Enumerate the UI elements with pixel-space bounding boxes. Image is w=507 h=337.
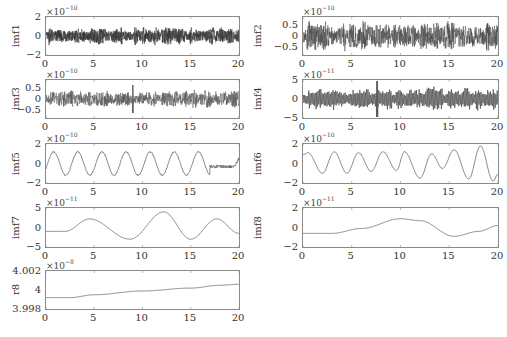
- x-tick-label: 15: [180, 59, 200, 69]
- y-tick-label: 0.5: [258, 20, 298, 30]
- x-tick-label: 10: [132, 313, 152, 323]
- exponent-label: ×10−10: [303, 4, 335, 17]
- figure-caption: [150, 331, 360, 337]
- x-tick-label: 5: [341, 187, 361, 197]
- series-line: [46, 144, 239, 183]
- y-tick-label: −0.5: [258, 42, 298, 52]
- y-tick-label: 4.002: [1, 266, 41, 276]
- plot-area: [302, 207, 499, 248]
- y-tick-label: 0: [258, 31, 298, 41]
- x-tick-label: 20: [487, 187, 507, 197]
- x-tick-label: 5: [341, 251, 361, 261]
- x-tick-label: 20: [228, 313, 248, 323]
- y-tick-label: 0: [1, 159, 41, 169]
- x-tick-label: 10: [390, 122, 410, 132]
- exponent-label: ×10−8: [46, 258, 74, 271]
- x-tick-label: 10: [390, 59, 410, 69]
- plot-area: [45, 207, 240, 248]
- x-tick-label: 5: [83, 187, 103, 197]
- exponent-label: ×10−10: [303, 131, 335, 144]
- x-tick-label: 10: [132, 187, 152, 197]
- exponent-label: ×10−10: [46, 67, 78, 80]
- exponent-label: ×10−11: [303, 67, 335, 80]
- x-tick-label: 15: [438, 251, 458, 261]
- x-tick-label: 20: [228, 187, 248, 197]
- y-tick-label: 2: [258, 203, 298, 213]
- x-tick-label: 0: [35, 313, 55, 323]
- plot-area: [45, 79, 240, 119]
- series-line: [303, 17, 498, 55]
- series-line: [303, 80, 498, 118]
- series-line: [303, 208, 498, 247]
- x-tick-label: 5: [83, 313, 103, 323]
- y-tick-label: 0.5: [1, 83, 41, 93]
- x-tick-label: 20: [228, 59, 248, 69]
- exponent-label: ×10−11: [303, 195, 335, 208]
- x-tick-label: 10: [132, 251, 152, 261]
- series-line: [46, 271, 239, 309]
- y-tick-label: 0: [1, 31, 41, 41]
- exponent-label: ×10−11: [46, 195, 78, 208]
- x-tick-label: 15: [180, 313, 200, 323]
- y-tick-label: 2: [1, 12, 41, 22]
- y-tick-label: −0.5: [1, 105, 41, 115]
- x-tick-label: 20: [487, 251, 507, 261]
- plot-area: [45, 16, 240, 56]
- y-tick-label: 0: [258, 223, 298, 233]
- plot-area: [302, 143, 499, 184]
- exponent-label: ×10−10: [46, 4, 78, 17]
- plot-area: [45, 143, 240, 184]
- x-tick-label: 5: [83, 251, 103, 261]
- x-tick-label: 5: [341, 122, 361, 132]
- y-tick-label: 2: [258, 139, 298, 149]
- x-tick-label: 10: [390, 251, 410, 261]
- x-tick-label: 5: [83, 122, 103, 132]
- x-tick-label: 10: [132, 59, 152, 69]
- x-tick-label: 15: [438, 187, 458, 197]
- x-tick-label: 15: [438, 59, 458, 69]
- y-tick-label: 0: [258, 159, 298, 169]
- y-tick-label: 0: [258, 94, 298, 104]
- x-tick-label: 10: [390, 187, 410, 197]
- plot-area: [302, 16, 499, 56]
- y-tick-label: 2: [1, 139, 41, 149]
- x-tick-label: 15: [180, 187, 200, 197]
- series-line: [303, 144, 498, 183]
- x-tick-label: 0: [292, 251, 312, 261]
- x-tick-label: 15: [180, 122, 200, 132]
- x-tick-label: 20: [487, 122, 507, 132]
- x-tick-label: 5: [341, 59, 361, 69]
- x-tick-label: 20: [487, 59, 507, 69]
- plot-area: [45, 270, 240, 310]
- exponent-label: ×10−10: [46, 131, 78, 144]
- x-tick-label: 5: [83, 59, 103, 69]
- y-tick-label: 5: [1, 203, 41, 213]
- series-line: [46, 80, 239, 118]
- y-tick-label: 5: [258, 75, 298, 85]
- x-tick-label: 20: [228, 122, 248, 132]
- series-line: [46, 17, 239, 55]
- series-line: [46, 208, 239, 247]
- y-tick-label: 0: [1, 223, 41, 233]
- y-tick-label: 4: [1, 285, 41, 295]
- x-tick-label: 15: [438, 122, 458, 132]
- x-tick-label: 15: [180, 251, 200, 261]
- x-tick-label: 10: [132, 122, 152, 132]
- x-tick-label: 20: [228, 251, 248, 261]
- plot-area: [302, 79, 499, 119]
- y-tick-label: 0: [1, 94, 41, 104]
